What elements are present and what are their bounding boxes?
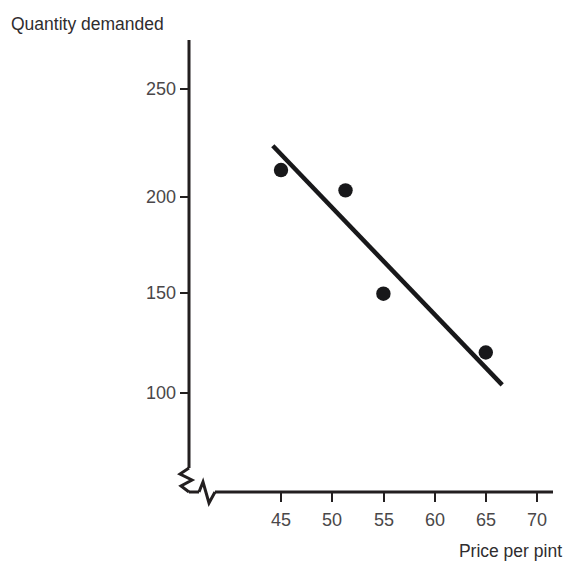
y-tick-label-100: 100: [146, 384, 176, 402]
x-axis-break-icon: [199, 482, 215, 503]
x-tick-label-50: 50: [322, 511, 342, 529]
y-tick-label-200: 200: [146, 188, 176, 206]
y-axis-break-icon: [180, 468, 192, 492]
x-tick-label-65: 65: [476, 511, 496, 529]
plot-area: [0, 0, 573, 587]
x-tick-label-45: 45: [271, 511, 291, 529]
y-tick-label-250: 250: [146, 80, 176, 98]
x-tick-label-60: 60: [425, 511, 445, 529]
data-point-marker: [376, 286, 390, 300]
data-point-marker: [479, 345, 493, 359]
demand-scatter-chart: Quantity demanded Price per pint 250 2: [0, 0, 573, 587]
x-tick-label-70: 70: [527, 511, 547, 529]
data-point-marker: [274, 163, 288, 177]
x-tick-label-55: 55: [374, 511, 394, 529]
data-point-marker: [338, 183, 352, 197]
trend-line: [273, 146, 502, 385]
y-tick-label-150: 150: [146, 284, 176, 302]
